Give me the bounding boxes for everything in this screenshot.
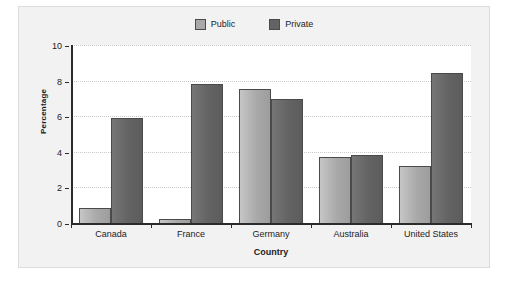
y-tick-10 — [65, 46, 69, 47]
legend-swatch-private — [269, 19, 280, 30]
bar-australia-public[interactable] — [319, 157, 351, 223]
bar-group-australia — [311, 45, 391, 223]
y-tick-label-0: 0 — [57, 219, 62, 229]
x-axis-label-canada: Canada — [71, 229, 151, 239]
bar-group-united-states — [391, 45, 471, 223]
legend-label-public: Public — [211, 20, 236, 29]
y-tick-2 — [65, 188, 69, 189]
x-axis-separator-3 — [311, 223, 312, 228]
bar-germany-private[interactable] — [271, 99, 303, 223]
x-axis-separator-1 — [151, 223, 152, 228]
bar-group-germany — [231, 45, 311, 223]
x-axis-label-germany: Germany — [231, 229, 311, 239]
bar-canada-private[interactable] — [111, 118, 143, 223]
y-axis-line — [71, 45, 73, 224]
bar-germany-public[interactable] — [239, 89, 271, 223]
x-axis-separator-2 — [231, 223, 232, 228]
x-axis-line — [71, 223, 472, 225]
y-tick-0 — [65, 224, 69, 225]
y-tick-4 — [65, 153, 69, 154]
plot-inner: 0246810 — [71, 45, 471, 223]
bar-group-canada — [71, 45, 151, 223]
y-tick-label-10: 10 — [52, 41, 62, 51]
x-axis-separator-5 — [471, 223, 472, 228]
x-axis-label-australia: Australia — [311, 229, 391, 239]
y-tick-8 — [65, 82, 69, 83]
x-axis-separator-4 — [391, 223, 392, 228]
bar-france-private[interactable] — [191, 84, 223, 223]
x-axis-labels: CanadaFranceGermanyAustraliaUnited State… — [71, 229, 471, 239]
legend-swatch-public — [195, 19, 206, 30]
y-tick-label-4: 4 — [57, 148, 62, 158]
y-tick-label-2: 2 — [57, 183, 62, 193]
chart-legend: Public Private — [19, 19, 489, 30]
y-tick-label-6: 6 — [57, 112, 62, 122]
x-axis-label-united-states: United States — [391, 229, 471, 239]
bar-group-france — [151, 45, 231, 223]
x-axis-label-france: France — [151, 229, 231, 239]
y-tick-label-8: 8 — [57, 77, 62, 87]
y-axis-title: Percentage — [39, 89, 48, 134]
bar-united-states-public[interactable] — [399, 166, 431, 223]
bar-australia-private[interactable] — [351, 155, 383, 223]
x-axis-separator-0 — [71, 223, 72, 228]
bar-united-states-private[interactable] — [431, 73, 463, 223]
bar-canada-public[interactable] — [79, 208, 111, 223]
legend-label-private: Private — [285, 20, 313, 29]
chart-frame: Public Private Percentage 0246810 Canada… — [18, 6, 490, 268]
legend-entry-private: Private — [269, 19, 313, 30]
legend-entry-public: Public — [195, 19, 236, 30]
bar-groups — [71, 45, 471, 223]
x-axis-title: Country — [71, 247, 471, 257]
plot-area: 0246810 — [71, 45, 471, 223]
y-tick-6 — [65, 117, 69, 118]
